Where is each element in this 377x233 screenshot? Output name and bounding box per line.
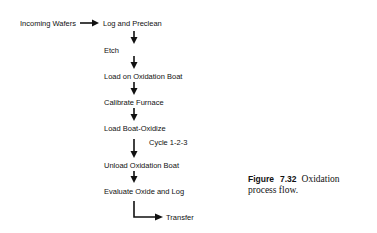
step-load-on-oxidation-boat: Load on Oxidation Boat bbox=[104, 72, 182, 81]
step-unload-oxidation-boat: Unload Oxidation Boat bbox=[104, 161, 179, 170]
figure-label: Figure bbox=[248, 174, 274, 184]
input-label: Incoming Wafers bbox=[20, 19, 76, 28]
arrow-right-icon bbox=[80, 20, 99, 27]
step-calibrate-furnace: Calibrate Furnace bbox=[104, 98, 164, 107]
arrow-down-icon bbox=[131, 31, 138, 44]
figure-caption: Figure7.32Oxidation process flow. bbox=[248, 174, 366, 196]
arrow-down-icon bbox=[131, 82, 138, 95]
figure-number: 7.32 bbox=[280, 174, 297, 184]
arrow-down-icon bbox=[131, 171, 138, 183]
arrow-down-icon bbox=[131, 108, 138, 121]
flow-arrows bbox=[0, 0, 377, 233]
cycle-label: Cycle 1-2-3 bbox=[149, 138, 187, 147]
step-evaluate-oxide-and-log: Evaluate Oxide and Log bbox=[104, 187, 184, 196]
step-etch: Etch bbox=[104, 46, 119, 55]
arrow-elbow-right-icon bbox=[134, 201, 163, 221]
output-label: Transfer bbox=[166, 213, 194, 222]
arrow-down-long-icon bbox=[131, 139, 138, 158]
step-load-boat-oxidize: Load Boat-Oxidize bbox=[104, 124, 166, 133]
step-log-and-preclean: Log and Preclean bbox=[103, 19, 162, 28]
arrow-down-icon bbox=[131, 56, 138, 69]
